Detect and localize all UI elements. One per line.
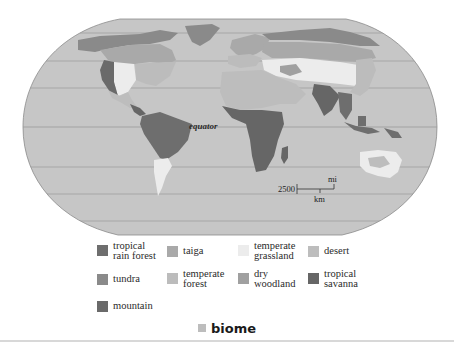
scale-unit-mi: mi bbox=[328, 174, 338, 184]
legend-item-tundra: tundra bbox=[97, 274, 140, 285]
legend-label: tropical rain forest bbox=[113, 241, 156, 261]
caption-swatch bbox=[198, 324, 206, 332]
legend-item-mountain: mountain bbox=[97, 301, 153, 312]
borneo bbox=[358, 116, 366, 126]
caption-title: biome bbox=[211, 321, 256, 336]
scale-unit-km: km bbox=[314, 194, 325, 204]
scale-value: 2500 bbox=[278, 184, 295, 194]
legend-swatch bbox=[308, 273, 319, 284]
legend-label: temperate grassland bbox=[254, 241, 295, 261]
legend-item-desert: desert bbox=[308, 246, 349, 257]
legend-swatch bbox=[97, 301, 108, 312]
legend-swatch bbox=[167, 246, 178, 257]
legend-label: temperate forest bbox=[183, 269, 224, 289]
legend-swatch bbox=[238, 245, 249, 256]
bottom-divider bbox=[0, 340, 454, 342]
legend-label: dry woodland bbox=[254, 269, 295, 289]
legend-swatch bbox=[97, 245, 108, 256]
legend-item-dry-woodland: dry woodland bbox=[238, 269, 295, 289]
legend-swatch bbox=[167, 273, 178, 284]
legend-label: tundra bbox=[113, 274, 140, 284]
legend-item-temperate-forest: temperate forest bbox=[167, 269, 224, 289]
legend-item-temperate-grassland: temperate grassland bbox=[238, 241, 295, 261]
legend-item-taiga: taiga bbox=[167, 246, 203, 257]
legend-label: tropical savanna bbox=[324, 269, 358, 289]
legend-label: desert bbox=[324, 246, 349, 256]
legend-label: mountain bbox=[113, 301, 153, 311]
legend-swatch bbox=[308, 246, 319, 257]
legend-label: taiga bbox=[183, 246, 203, 256]
equator-label: equator bbox=[189, 121, 218, 131]
legend-item-tropical-savanna: tropical savanna bbox=[308, 269, 358, 289]
figure-caption: biome bbox=[0, 319, 454, 337]
world-biome-map: equator 2500 mi km bbox=[0, 0, 454, 240]
legend-item-tropical-rain-forest: tropical rain forest bbox=[97, 241, 156, 261]
legend-swatch bbox=[97, 274, 108, 285]
legend-swatch bbox=[238, 273, 249, 284]
